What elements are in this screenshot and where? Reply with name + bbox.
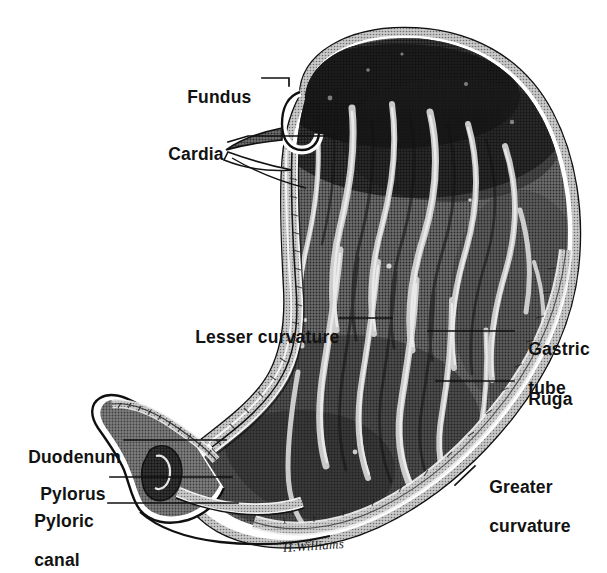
label-cardia: Cardia bbox=[158, 126, 224, 164]
label-fundus: Fundus bbox=[177, 69, 252, 107]
label-pyloric-canal: Pyloric canal bbox=[24, 492, 94, 570]
label-pyloric-canal-line2: canal bbox=[34, 550, 80, 570]
label-gastric-tube-line1: Gastric bbox=[528, 339, 590, 359]
label-greater-curvature-line2: curvature bbox=[489, 516, 571, 536]
label-ruga: Ruga bbox=[518, 371, 573, 409]
label-pyloric-canal-line1: Pyloric bbox=[34, 511, 94, 531]
label-greater-curvature-line1: Greater bbox=[489, 477, 553, 497]
label-lesser-curvature: Lesser curvature bbox=[185, 309, 339, 347]
label-greater-curvature: Greater curvature bbox=[479, 458, 571, 536]
label-duodenum: Duodenum bbox=[18, 429, 121, 467]
